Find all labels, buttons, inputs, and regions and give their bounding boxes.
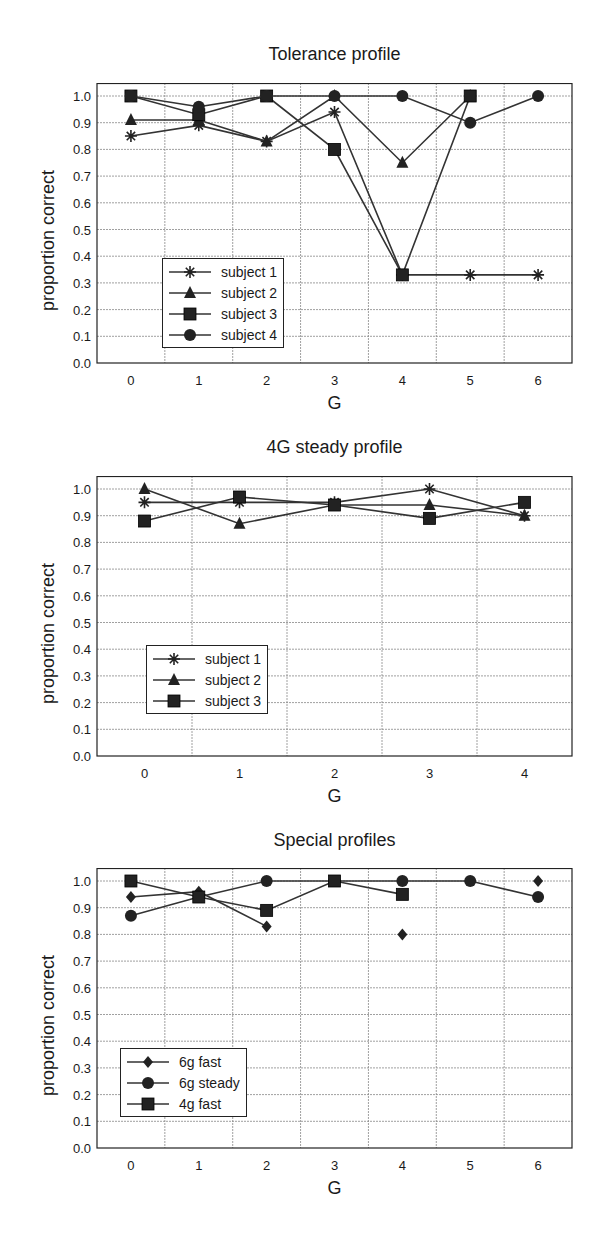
circle-marker-icon (125, 910, 137, 922)
asterisk-marker-icon (168, 653, 180, 665)
x-tick-label: 0 (141, 766, 148, 781)
square-marker-icon (329, 143, 341, 155)
legend-label: subject 4 (221, 327, 277, 343)
y-tick-label: 0.1 (73, 329, 91, 344)
circle-marker-icon (396, 90, 408, 102)
circle-legend-icon (167, 327, 213, 343)
square-legend-icon (125, 1096, 171, 1112)
legend-item: subject 2 (151, 669, 261, 690)
circle-marker-icon (261, 90, 273, 102)
x-axis-label: G (97, 393, 572, 414)
square-marker-icon (424, 512, 436, 524)
y-tick-label: 0.9 (73, 116, 91, 131)
legend-item: subject 2 (167, 282, 277, 303)
y-tick-label: 0.5 (73, 616, 91, 631)
triangle-marker-icon (424, 498, 436, 510)
x-tick-label: 2 (263, 1158, 270, 1173)
y-axis-label: proportion correct (38, 170, 59, 311)
circle-marker-icon (184, 329, 196, 341)
series-line (131, 112, 538, 275)
circle-marker-icon (396, 875, 408, 887)
square-marker-icon (168, 695, 180, 707)
x-tick-label: 5 (467, 373, 474, 388)
square-marker-icon (329, 875, 341, 887)
legend-label: 6g fast (179, 1054, 221, 1070)
x-tick-label: 3 (331, 1158, 338, 1173)
legend: subject 1subject 2subject 3subject 4 (162, 258, 284, 348)
square-marker-icon (193, 891, 205, 903)
x-tick-label: 5 (467, 1158, 474, 1173)
legend: 6g fast6g steady4g fast (120, 1048, 247, 1117)
y-tick-label: 0.1 (73, 1114, 91, 1129)
y-tick-label: 0.3 (73, 1061, 91, 1076)
diamond-marker-icon (533, 875, 543, 887)
square-marker-icon (184, 308, 196, 320)
legend-item: 6g fast (125, 1051, 240, 1072)
legend-label: subject 2 (205, 672, 261, 688)
y-tick-label: 0.3 (73, 276, 91, 291)
x-tick-label: 1 (195, 373, 202, 388)
y-tick-label: 0.1 (73, 722, 91, 737)
y-tick-label: 0.0 (73, 356, 91, 371)
chart-title: Tolerance profile (97, 44, 572, 65)
y-tick-label: 0.5 (73, 223, 91, 238)
triangle-marker-icon (125, 113, 137, 125)
asterisk-marker-icon (532, 269, 544, 281)
y-tick-label: 0.9 (73, 509, 91, 524)
diamond-marker-icon (262, 920, 272, 932)
legend-item: subject 1 (167, 261, 277, 282)
circle-marker-icon (464, 875, 476, 887)
square-marker-icon (464, 90, 476, 102)
y-tick-label: 0.0 (73, 749, 91, 764)
circle-marker-icon (193, 101, 205, 113)
y-tick-label: 0.6 (73, 589, 91, 604)
legend-item: 6g steady (125, 1072, 240, 1093)
legend-item: 4g fast (125, 1093, 240, 1114)
x-tick-label: 4 (399, 373, 406, 388)
y-tick-label: 0.9 (73, 901, 91, 916)
asterisk-marker-icon (464, 269, 476, 281)
square-marker-icon (396, 888, 408, 900)
legend-label: 6g steady (179, 1075, 240, 1091)
series-subject-1 (125, 106, 544, 281)
legend: subject 1subject 2subject 3 (146, 645, 268, 714)
circle-marker-icon (142, 1077, 154, 1089)
circle-marker-icon (464, 117, 476, 129)
x-tick-label: 4 (399, 1158, 406, 1173)
legend-item: subject 1 (151, 648, 261, 669)
y-tick-label: 0.5 (73, 1008, 91, 1023)
triangle-marker-icon (139, 482, 151, 494)
x-tick-label: 1 (195, 1158, 202, 1173)
legend-item: subject 3 (167, 303, 277, 324)
chart-title: 4G steady profile (97, 437, 572, 458)
asterisk-legend-icon (167, 264, 213, 280)
asterisk-marker-icon (139, 496, 151, 508)
asterisk-marker-icon (424, 483, 436, 495)
y-tick-label: 0.8 (73, 927, 91, 942)
triangle-legend-icon (167, 285, 213, 301)
x-tick-label: 0 (127, 1158, 134, 1173)
y-tick-label: 0.0 (73, 1141, 91, 1156)
y-tick-label: 0.4 (73, 249, 91, 264)
x-tick-label: 6 (534, 373, 541, 388)
asterisk-marker-icon (184, 266, 196, 278)
y-axis-label: proportion correct (38, 563, 59, 704)
circle-marker-icon (125, 90, 137, 102)
legend-item: subject 4 (167, 324, 277, 345)
y-tick-label: 0.2 (73, 1088, 91, 1103)
triangle-legend-icon (151, 672, 197, 688)
diamond-marker-icon (397, 928, 407, 940)
square-marker-icon (139, 515, 151, 527)
diamond-legend-icon (125, 1054, 171, 1070)
circle-legend-icon (125, 1075, 171, 1091)
square-marker-icon (396, 269, 408, 281)
y-tick-label: 0.7 (73, 562, 91, 577)
square-marker-icon (519, 496, 531, 508)
square-marker-icon (142, 1098, 154, 1110)
x-axis-label: G (97, 1178, 572, 1199)
legend-label: subject 3 (221, 306, 277, 322)
legend-label: subject 1 (205, 651, 261, 667)
legend-label: subject 1 (221, 264, 277, 280)
square-marker-icon (261, 904, 273, 916)
y-tick-label: 0.4 (73, 1034, 91, 1049)
